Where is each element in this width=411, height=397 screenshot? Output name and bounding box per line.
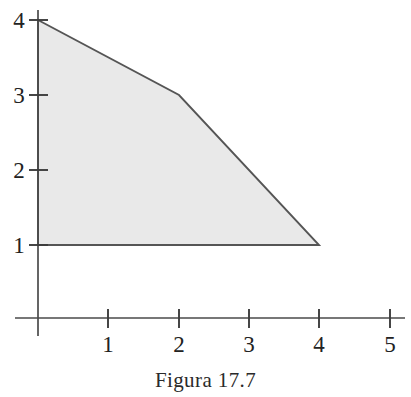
shaded-region-polygon: [38, 20, 319, 245]
x-tick-label-2: 2: [173, 332, 185, 357]
x-tick-label-3: 3: [243, 332, 255, 357]
y-tick-label-1: 1: [13, 233, 25, 258]
figure-container: 1 2 3 4 5 1 2 3 4 Figura 17.7: [0, 0, 411, 397]
x-tick-label-1: 1: [102, 332, 114, 357]
y-tick-label-4: 4: [13, 8, 25, 33]
x-tick-label-5: 5: [384, 332, 396, 357]
figure-caption: Figura 17.7: [0, 368, 411, 393]
y-tick-label-2: 2: [13, 158, 25, 183]
y-tick-label-3: 3: [13, 83, 25, 108]
x-tick-label-4: 4: [313, 332, 325, 357]
coordinate-plot: 1 2 3 4 5 1 2 3 4: [0, 0, 411, 360]
